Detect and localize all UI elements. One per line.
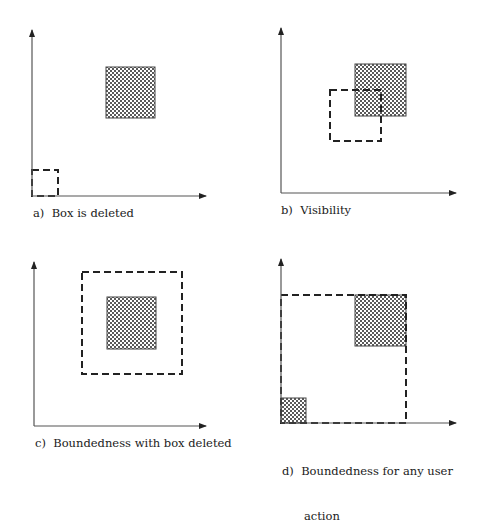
caption-d-line-1: d) Boundedness for any user (282, 464, 453, 479)
caption-d-line-2: action (282, 509, 453, 524)
caption-b: b) Visibility (281, 203, 351, 218)
panel-d (281, 259, 456, 423)
shaded-box (281, 398, 306, 423)
shaded-box (106, 67, 155, 118)
caption-a: a) Box is deleted (33, 206, 134, 221)
panel-b (281, 28, 456, 193)
caption-d: d) Boundedness for any user action (282, 434, 453, 524)
shaded-box (355, 295, 406, 346)
dashed-bounding-box (32, 170, 58, 196)
shaded-box (107, 297, 156, 349)
panel-a (32, 30, 206, 196)
panel-c (34, 262, 206, 426)
panels-layer (32, 28, 456, 426)
caption-c: c) Boundedness with box deleted (35, 436, 232, 451)
